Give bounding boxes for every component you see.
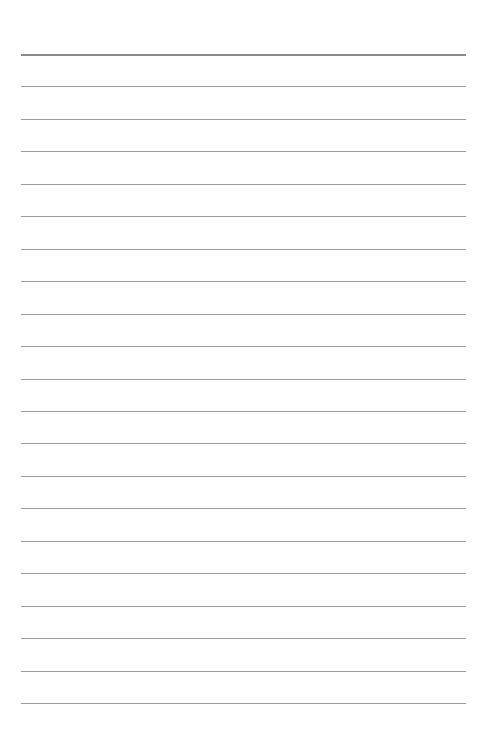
ruled-line (21, 476, 466, 477)
ruled-line (21, 573, 466, 574)
ruled-line (21, 216, 466, 217)
ruled-line (21, 119, 466, 120)
ruled-line (21, 281, 466, 282)
ruled-line (21, 379, 466, 380)
ruled-line (21, 541, 466, 542)
ruled-line (21, 443, 466, 444)
ruled-line (21, 671, 466, 672)
ruled-line (21, 314, 466, 315)
ruled-line (21, 249, 466, 250)
ruled-line (21, 638, 466, 639)
ruled-line (21, 184, 466, 185)
ruled-line (21, 151, 466, 152)
ruled-line (21, 606, 466, 607)
ruled-line (21, 346, 466, 347)
ruled-line (21, 86, 466, 87)
ruled-line (21, 411, 466, 412)
ruled-line (21, 54, 466, 56)
ruled-line (21, 508, 466, 509)
ruled-line (21, 703, 466, 704)
